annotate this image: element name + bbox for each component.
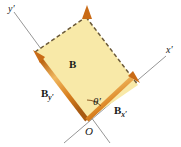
axis-label-x-prime: x′ bbox=[166, 45, 173, 55]
vector-label-B: B bbox=[69, 59, 76, 70]
vector-diagram-figure: y′ x′ B By′ Bx′ θ′ O bbox=[0, 0, 181, 147]
vector-B-arrowhead bbox=[82, 5, 92, 19]
vector-label-Bx-prime: Bx′ bbox=[114, 105, 127, 119]
angle-label-theta-prime: θ′ bbox=[93, 96, 101, 107]
axis-label-y-prime: y′ bbox=[8, 4, 15, 14]
origin-label: O bbox=[85, 126, 93, 137]
vector-label-By-prime-subscript: y′ bbox=[48, 93, 53, 102]
vector-label-Bx-prime-subscript: x′ bbox=[121, 110, 127, 119]
vector-label-By-prime: By′ bbox=[41, 88, 54, 102]
